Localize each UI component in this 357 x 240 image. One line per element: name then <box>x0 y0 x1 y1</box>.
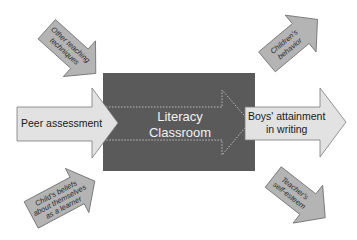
output-arrow-boys-attainment: Boys' attainment in writing <box>245 88 346 157</box>
influence-arrow-teachers-self-esteem: Teacher's self-esteem <box>258 158 340 236</box>
influence-arrow-other-teaching: Other teaching techniques <box>31 11 112 91</box>
center-title-line2: Classroom <box>149 125 211 140</box>
center-title-line1: Literacy <box>157 109 203 124</box>
influence-arrow-childs-beliefs: Child's beliefs about themselves as a le… <box>19 159 106 237</box>
output-arrow-label-line2: in writing <box>266 123 308 135</box>
influence-arrow-childrens-behavior: Children's behavior <box>252 1 333 80</box>
diagram-canvas: Other teaching techniques Child's belief… <box>0 0 357 240</box>
input-arrow-label: Peer assessment <box>21 117 102 129</box>
output-arrow-label-line1: Boys' attainment <box>248 110 325 122</box>
input-arrow-peer-assessment: Peer assessment <box>17 88 118 158</box>
